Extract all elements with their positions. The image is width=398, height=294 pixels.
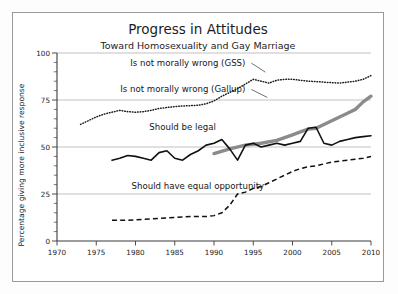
y-tick-label-100: 100 (36, 49, 50, 58)
data-series-group (81, 76, 371, 221)
y-tick-label-75: 75 (41, 96, 50, 105)
x-tick-label-1980: 1980 (126, 248, 145, 257)
x-tick-label-1995: 1995 (244, 248, 262, 257)
chart-subtitle: Toward Homosexuality and Gay Marriage (100, 40, 296, 51)
chart-title: Progress in Attitudes (128, 21, 268, 37)
x-tick-label-2000: 2000 (283, 248, 302, 257)
y-tick-label-25: 25 (41, 190, 50, 199)
x-tick-label-2005: 2005 (323, 248, 341, 257)
series-line-is-not-morally-wrong-gallup (214, 96, 371, 153)
series-label-should-have-equal-opportunity: Should have equal opportunity (132, 181, 265, 191)
x-axis-tick-labels: 197019751980198519901995200020052010 (48, 248, 381, 257)
x-tick-label-2010: 2010 (362, 248, 381, 257)
x-tick-label-1975: 1975 (87, 248, 105, 257)
x-tick-label-1990: 1990 (205, 248, 224, 257)
leader-line-is-not-morally-wrong-gss (251, 63, 265, 72)
chart-figure: Progress in Attitudes Toward Homosexuali… (0, 0, 398, 294)
series-annotations: Is not morally wrong (GSS)Is not morally… (120, 58, 267, 191)
leader-line-is-not-morally-wrong-gallup (251, 89, 267, 97)
x-tick-label-1985: 1985 (166, 248, 184, 257)
y-tick-label-0: 0 (45, 237, 50, 246)
y-tick-label-50: 50 (41, 143, 51, 152)
series-label-is-not-morally-wrong-gss: Is not morally wrong (GSS) (130, 58, 245, 68)
x-tick-label-1970: 1970 (48, 248, 67, 257)
y-axis-title: Percentage giving more inclusive respons… (17, 83, 26, 246)
y-axis-tick-labels: 0255075100 (36, 49, 50, 246)
series-line-should-be-legal (112, 127, 371, 160)
series-label-is-not-morally-wrong-gallup: Is not morally wrong (Gallup) (120, 84, 245, 94)
series-label-should-be-legal: Should be legal (149, 122, 215, 132)
x-axis-ticks (57, 241, 371, 246)
chart-canvas: Progress in Attitudes Toward Homosexuali… (13, 13, 383, 281)
chart-frame: Progress in Attitudes Toward Homosexuali… (12, 12, 384, 282)
